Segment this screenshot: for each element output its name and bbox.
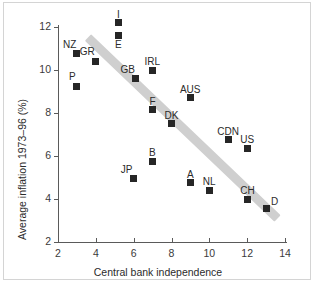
x-tick-label: 4 [84,247,108,259]
x-axis-line [58,242,287,243]
x-tick-label: 12 [235,247,259,259]
data-point-marker [149,106,156,113]
x-tick-label: 14 [273,247,297,259]
y-axis-line [58,25,59,243]
y-tick-mark [54,199,58,200]
y-tick-label: 10 [38,63,51,75]
scatter-chart: 24681012 2468101214 NZPGRIEGBIRLJPBFDKAU… [0,0,316,284]
y-tick-mark [54,242,58,243]
data-point-label: JP [121,164,133,175]
data-point-marker [115,19,122,26]
y-tick-label: 6 [38,149,51,161]
data-point-label: GR [80,46,95,57]
data-point-label: B [149,147,156,158]
data-point-label: US [240,134,254,145]
y-tick-label: 8 [38,106,51,118]
data-point-marker [168,120,175,127]
data-point-label: NL [203,176,216,187]
data-point-label: I [117,9,120,20]
data-point-marker [244,145,251,152]
data-point-marker [130,175,137,182]
data-point-marker [206,187,213,194]
x-axis-title: Central bank independence [0,266,316,278]
data-point-label: DK [165,110,179,121]
data-point-marker [187,179,194,186]
data-point-label: IRL [145,56,161,67]
x-tick-mark [285,238,286,242]
data-point-marker [244,196,251,203]
data-point-label: GB [121,64,135,75]
x-tick-mark [247,238,248,242]
x-tick-mark [134,238,135,242]
x-tick-mark [172,238,173,242]
data-point-marker [92,58,99,65]
y-tick-label: 12 [38,20,51,32]
x-tick-label: 8 [160,247,184,259]
data-point-label: AUS [180,84,201,95]
y-tick-mark [54,27,58,28]
data-point-marker [225,136,232,143]
x-tick-mark [96,238,97,242]
y-tick-label: 4 [38,192,51,204]
y-tick-label: 2 [38,235,51,247]
data-point-label: F [150,96,156,107]
y-tick-mark [54,156,58,157]
data-point-label: A [187,169,194,180]
x-tick-label: 6 [122,247,146,259]
data-point-label: CH [240,185,254,196]
data-point-label: NZ [63,39,76,50]
y-tick-mark [54,70,58,71]
y-tick-mark [54,113,58,114]
data-point-marker [73,83,80,90]
x-tick-mark [58,238,59,242]
data-point-marker [132,75,139,82]
y-axis-title: Average inflation 1973–96 (%) [16,99,28,240]
x-tick-label: 10 [197,247,221,259]
data-point-label: E [115,39,122,50]
data-point-marker [187,94,194,101]
data-point-marker [149,67,156,74]
x-tick-mark [209,238,210,242]
x-tick-label: 2 [46,247,70,259]
data-point-label: CDN [217,126,239,137]
data-point-marker [149,158,156,165]
data-point-marker [263,205,270,212]
data-point-label: P [69,71,76,82]
data-point-label: D [271,196,278,207]
